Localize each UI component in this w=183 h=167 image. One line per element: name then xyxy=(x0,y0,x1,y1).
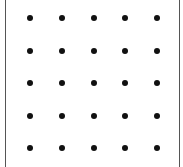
grid-dot xyxy=(59,145,65,151)
grid-dot xyxy=(91,80,97,86)
grid-dot xyxy=(122,48,128,54)
grid-dot xyxy=(154,145,160,151)
grid-dot xyxy=(122,80,128,86)
grid-dot xyxy=(122,145,128,151)
grid-dot xyxy=(91,145,97,151)
grid-dot xyxy=(122,15,128,21)
grid-dot xyxy=(27,48,33,54)
grid-dot xyxy=(59,80,65,86)
grid-dot xyxy=(27,145,33,151)
grid-dot xyxy=(27,80,33,86)
grid-dot xyxy=(154,48,160,54)
grid-dot xyxy=(91,15,97,21)
grid-dot xyxy=(154,80,160,86)
grid-dot xyxy=(91,113,97,119)
grid-dot xyxy=(27,15,33,21)
grid-dot xyxy=(27,113,33,119)
grid-dot xyxy=(154,113,160,119)
grid-dot xyxy=(59,48,65,54)
grid-dot xyxy=(59,15,65,21)
grid-dot xyxy=(59,113,65,119)
grid-dot xyxy=(154,15,160,21)
grid-dot xyxy=(122,113,128,119)
grid-dot xyxy=(91,48,97,54)
